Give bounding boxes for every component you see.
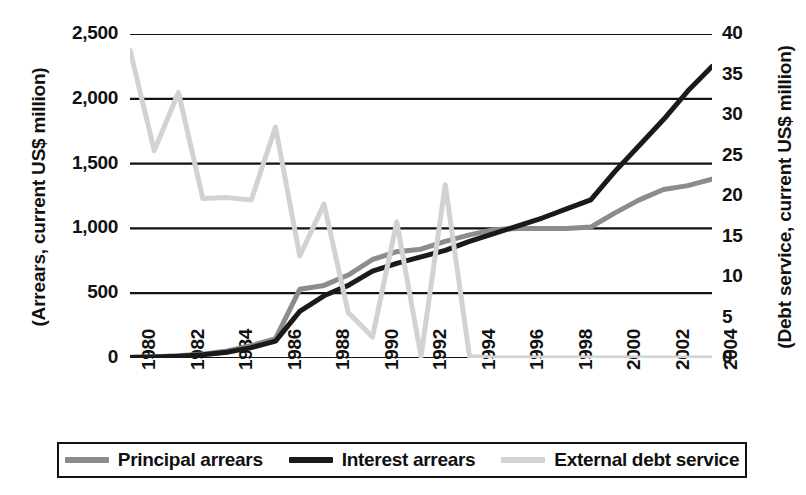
- legend-swatch-icon: [289, 457, 333, 463]
- legend-label: Interest arrears: [342, 449, 476, 471]
- y-axis-right-tick-label: 5: [722, 306, 782, 328]
- y-axis-left-tick-label: 2,500: [28, 22, 118, 44]
- x-axis-tick-label: 2004: [720, 329, 742, 370]
- y-axis-right-tick-label: 40: [722, 22, 782, 44]
- legend-label: Principal arrears: [118, 449, 263, 471]
- series-line: [130, 50, 712, 358]
- legend-item[interactable]: Principal arrears: [65, 449, 263, 471]
- y-axis-left-tick-label: 1,000: [28, 216, 118, 238]
- plot-svg: [130, 34, 712, 358]
- y-axis-left-tick-label: 1,500: [28, 152, 118, 174]
- y-axis-right-tick-label: 25: [722, 144, 782, 166]
- y-axis-right-tick-label: 30: [722, 103, 782, 125]
- y-axis-right-tick-label: 35: [722, 63, 782, 85]
- plot-area: [130, 34, 712, 358]
- legend-swatch-icon: [65, 457, 109, 463]
- legend-item[interactable]: External debt service: [501, 449, 739, 471]
- y-axis-right-tick-label: 10: [722, 265, 782, 287]
- legend-swatch-icon: [501, 457, 545, 463]
- legend-item[interactable]: Interest arrears: [289, 449, 476, 471]
- y-axis-left-tick-label: 2,000: [28, 87, 118, 109]
- series-line: [130, 179, 712, 357]
- y-axis-left-title: (Arrears, current US$ million): [28, 27, 50, 367]
- y-axis-right-tick-label: 20: [722, 184, 782, 206]
- y-axis-left-tick-label: 0: [28, 346, 118, 368]
- y-axis-left-tick-label: 500: [28, 281, 118, 303]
- y-axis-right-tick-label: 15: [722, 225, 782, 247]
- chart-figure: (Arrears, current US$ million) (Debt ser…: [0, 0, 806, 495]
- legend-label: External debt service: [554, 449, 739, 471]
- series-line: [130, 66, 712, 357]
- chart-legend: Principal arrearsInterest arrearsExterna…: [57, 442, 747, 478]
